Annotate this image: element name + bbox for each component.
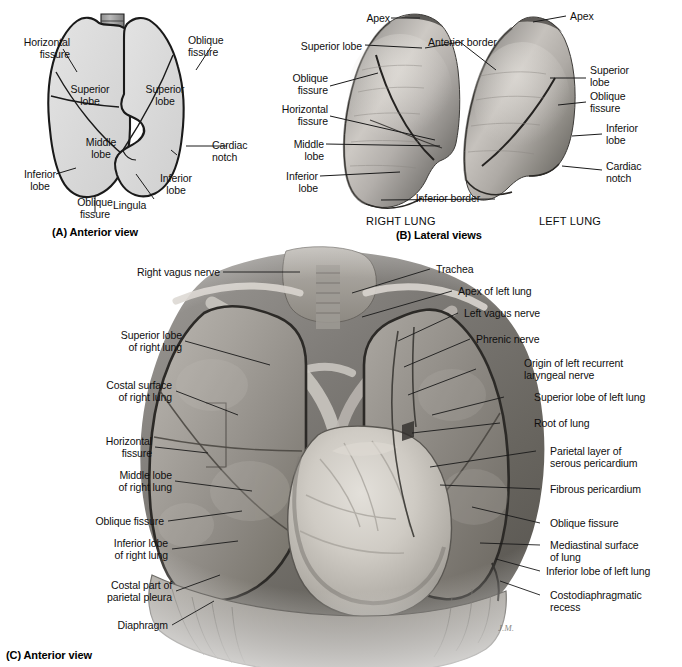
label-costodiaphragmatic-recess-c: Costodiaphragmatic recess bbox=[550, 589, 682, 613]
label-superior-lobe-right-lung-c: Superior lobe of right lung bbox=[50, 329, 182, 353]
label-inferior-lobe-left-a: Inferior lobe bbox=[150, 172, 202, 196]
label-oblique-fissure-left-c: Oblique fissure bbox=[550, 517, 680, 529]
label-superior-lobe-right-b: Superior lobe bbox=[270, 40, 362, 52]
label-phrenic-nerve-c: Phrenic nerve bbox=[476, 333, 602, 345]
label-apex-right-b: Apex bbox=[354, 12, 390, 24]
panel-a-anterior-line-drawing: Horizontal fissure Superior lobe Middle … bbox=[0, 0, 250, 250]
label-inferior-lobe-left-b: Inferior lobe bbox=[606, 122, 660, 146]
label-mediastinal-surface-of-lung-c: Mediastinal surface of lung bbox=[550, 539, 682, 563]
label-horizontal-fissure-right-b: Horizontal fissure bbox=[258, 103, 328, 127]
label-apex-of-left-lung-c: Apex of left lung bbox=[458, 285, 600, 297]
label-origin-left-recurrent-laryngeal-nerve-c: Origin of left recurrent laryngeal nerve bbox=[524, 357, 682, 381]
label-right-vagus-nerve-c: Right vagus nerve bbox=[60, 266, 220, 278]
label-oblique-fissure-left-a: Oblique fissure bbox=[188, 34, 252, 58]
label-anterior-border-b: Anterior border bbox=[428, 36, 528, 48]
anatomy-figure: Horizontal fissure Superior lobe Middle … bbox=[0, 0, 682, 667]
label-inferior-lobe-right-lung-c: Inferior lobe of right lung bbox=[48, 537, 168, 561]
label-costal-surface-right-lung-c: Costal surface of right lung bbox=[36, 379, 172, 403]
label-diaphragm-c: Diaphragm bbox=[70, 619, 168, 631]
label-horizontal-fissure-a: Horizontal fissure bbox=[6, 36, 70, 60]
label-inferior-lobe-right-b: Inferior lobe bbox=[266, 170, 318, 194]
label-fibrous-pericardium-c: Fibrous pericardium bbox=[550, 483, 682, 495]
specimen-name-left-lung: LEFT LUNG bbox=[539, 215, 601, 227]
panel-a-caption: (A) Anterior view bbox=[52, 226, 138, 238]
panel-b-lateral-views: Apex Superior lobe Oblique fissure Horiz… bbox=[250, 0, 682, 250]
label-trachea-c: Trachea bbox=[436, 263, 556, 275]
panel-b-caption: (B) Lateral views bbox=[396, 229, 482, 241]
label-superior-lobe-right-a: Superior lobe bbox=[58, 83, 122, 107]
label-left-vagus-nerve-c: Left vagus nerve bbox=[464, 307, 604, 319]
label-inferior-lobe-right-a: Inferior lobe bbox=[13, 168, 67, 192]
label-superior-lobe-left-b: Superior lobe bbox=[590, 64, 648, 88]
label-middle-lobe-a: Middle lobe bbox=[73, 136, 129, 160]
label-oblique-fissure-c: Oblique fissure bbox=[48, 515, 164, 527]
label-oblique-fissure-left-b: Oblique fissure bbox=[590, 90, 648, 114]
panel-c-caption: (C) Anterior view bbox=[6, 649, 92, 661]
label-cardiac-notch-left-b: Cardiac notch bbox=[606, 160, 660, 184]
label-oblique-fissure-right-b: Oblique fissure bbox=[272, 72, 328, 96]
panel-c-anterior-dissection: J.M. Right vagus nerve Superior lobe of … bbox=[0, 245, 682, 667]
label-apex-left-b: Apex bbox=[570, 10, 610, 22]
label-root-of-lung-c: Root of lung bbox=[534, 417, 654, 429]
label-inferior-lobe-of-left-lung-c: Inferior lobe of left lung bbox=[546, 565, 682, 577]
label-lingula-a: Lingula bbox=[113, 199, 169, 211]
label-superior-lobe-left-a: Superior lobe bbox=[133, 83, 197, 107]
label-middle-lobe-right-b: Middle lobe bbox=[270, 138, 324, 162]
label-inferior-border-b: Inferior border bbox=[402, 192, 494, 204]
label-horizontal-fissure-c: Horizontal fissure bbox=[60, 435, 152, 459]
label-costal-part-parietal-pleura-c: Costal part of parietal pleura bbox=[42, 579, 172, 603]
specimen-name-right-lung: RIGHT LUNG bbox=[366, 215, 436, 227]
svg-text:J.M.: J.M. bbox=[498, 623, 514, 633]
label-middle-lobe-right-lung-c: Middle lobe of right lung bbox=[48, 469, 172, 493]
label-parietal-layer-serous-pericardium-c: Parietal layer of serous pericardium bbox=[550, 445, 682, 469]
label-superior-lobe-of-left-lung-c: Superior lobe of left lung bbox=[534, 391, 682, 403]
